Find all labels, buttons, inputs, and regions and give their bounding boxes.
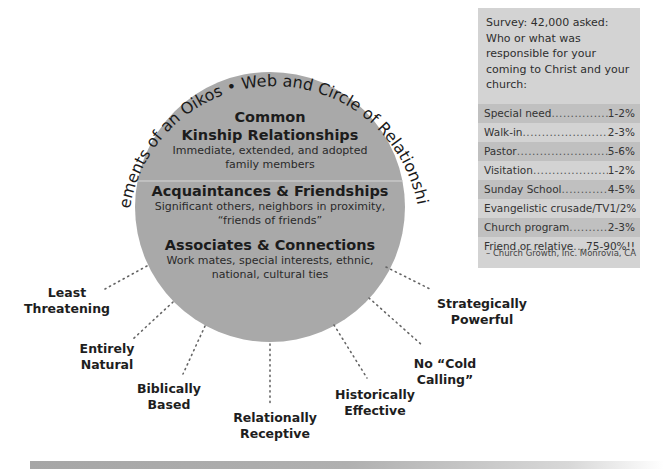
survey-row-label: Sunday School <box>484 180 561 199</box>
ring-acquaintances-title: Acquaintances & Friendships <box>140 182 400 200</box>
ring-acquaintances-desc-2: “friends of friends” <box>140 214 400 228</box>
connector-entirely-natural <box>133 302 173 339</box>
label-biblically-based: Biblically Based <box>134 381 204 413</box>
ring-associates-desc-2: national, cultural ties <box>150 268 390 282</box>
survey-row: Church program2-3% <box>478 218 640 237</box>
label-least-threatening: Least Threatening <box>22 285 112 317</box>
label-line: Receptive <box>225 426 325 442</box>
survey-row: Sunday School4-5% <box>478 180 640 199</box>
connector-strategically-powerful <box>386 267 432 290</box>
survey-row-value: 2-3% <box>608 218 635 237</box>
survey-row-label: Pastor <box>484 142 517 161</box>
ring-associates-desc-1: Work mates, special interests, ethnic, <box>150 254 390 268</box>
survey-row: Special need1-2% <box>478 104 640 123</box>
ring-kinship-title-1: Common <box>160 108 380 126</box>
ring-acquaintances: Acquaintances & Friendships Significant … <box>140 182 400 228</box>
label-line: Effective <box>330 403 420 419</box>
label-line: Strategically <box>432 296 532 312</box>
survey-panel: Survey: 42,000 asked: Who or what was re… <box>478 8 640 268</box>
dot-leader <box>561 180 607 199</box>
survey-question: Survey: 42,000 asked: Who or what was re… <box>486 15 636 93</box>
survey-row-value: 2-3% <box>608 123 635 142</box>
label-line: Based <box>134 397 204 413</box>
dot-leader <box>517 142 608 161</box>
label-line: No “Cold <box>405 356 485 372</box>
ring-associates: Associates & Connections Work mates, spe… <box>150 236 390 282</box>
survey-row-value: 5-6% <box>608 142 635 161</box>
label-line: Calling” <box>405 372 485 388</box>
dot-leader <box>551 104 607 123</box>
survey-row: Pastor5-6% <box>478 142 640 161</box>
label-entirely-natural: Entirely Natural <box>72 341 142 373</box>
survey-row-value: 1-2% <box>608 104 635 123</box>
connector-no-cold-calling <box>369 298 423 346</box>
label-no-cold-calling: No “Cold Calling” <box>405 356 485 388</box>
survey-row-value: 1/2% <box>609 199 636 218</box>
label-line: Entirely <box>72 341 142 357</box>
survey-results-list: Special need1-2% Walk-in2-3% Pastor5-6% … <box>478 104 640 256</box>
survey-row: Evangelistic crusade/TV1/2% <box>478 199 640 218</box>
survey-row: Walk-in2-3% <box>478 123 640 142</box>
survey-row-value: 1-2% <box>608 161 635 180</box>
survey-row-label: Church program <box>484 218 569 237</box>
ring-kinship-title-2: Kinship Relationships <box>160 126 380 144</box>
label-line: Least <box>22 285 112 301</box>
ring-associates-title: Associates & Connections <box>150 236 390 254</box>
label-line: Threatening <box>22 301 112 317</box>
ring-kinship-desc-2: family members <box>160 158 380 172</box>
dot-leader <box>569 218 608 237</box>
survey-source: – Church Growth, Inc. Monrovia, CA <box>478 248 636 258</box>
connector-biblically-based <box>183 326 205 374</box>
label-historically-effective: Historically Effective <box>330 387 420 419</box>
dot-leader <box>523 123 608 142</box>
connector-historically-effective <box>334 325 367 378</box>
label-line: Powerful <box>432 312 532 328</box>
survey-row-label: Evangelistic crusade/TV <box>484 199 609 218</box>
label-line: Biblically <box>134 381 204 397</box>
ring-kinship: Common Kinship Relationships Immediate, … <box>160 108 380 172</box>
label-strategically-powerful: Strategically Powerful <box>432 296 532 328</box>
dot-leader <box>533 161 608 180</box>
ring-acquaintances-desc-1: Significant others, neighbors in proximi… <box>140 200 400 214</box>
ring-kinship-desc-1: Immediate, extended, and adopted <box>160 144 380 158</box>
survey-row-label: Special need <box>484 104 551 123</box>
label-line: Historically <box>330 387 420 403</box>
survey-row-value: 4-5% <box>608 180 635 199</box>
bottom-divider-bar <box>30 461 664 469</box>
survey-row-label: Visitation <box>484 161 533 180</box>
survey-row-label: Walk-in <box>484 123 523 142</box>
label-line: Natural <box>72 357 142 373</box>
label-line: Relationally <box>225 410 325 426</box>
survey-row: Visitation1-2% <box>478 161 640 180</box>
label-relationally-receptive: Relationally Receptive <box>225 410 325 442</box>
